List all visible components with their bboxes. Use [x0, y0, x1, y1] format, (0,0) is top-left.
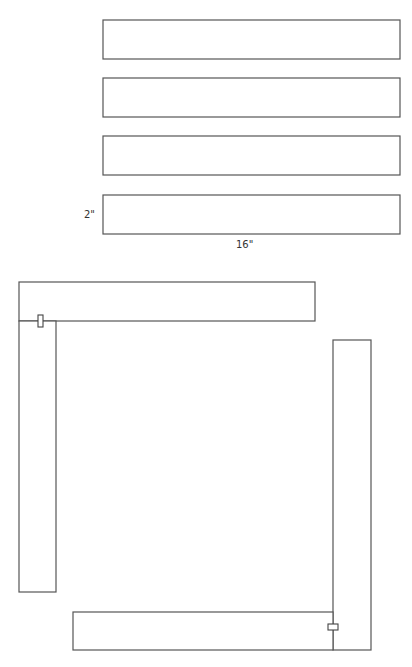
- strip-2: [103, 78, 400, 117]
- strips-group: [103, 20, 400, 234]
- clamp-top-left-icon: [38, 315, 43, 327]
- strip-1: [103, 20, 400, 59]
- frame-right-bar: [333, 340, 371, 650]
- strip-4: [103, 195, 400, 234]
- clamp-bottom-right-icon: [328, 624, 338, 630]
- strip-3: [103, 136, 400, 175]
- frame-top-bar: [19, 282, 315, 321]
- frame-assembly: [19, 282, 371, 650]
- frame-bottom-bar: [73, 612, 333, 650]
- diagram-canvas: 2" 16": [0, 0, 412, 667]
- width-dimension-label: 16": [236, 239, 253, 250]
- height-dimension-label: 2": [84, 209, 95, 220]
- frame-left-bar: [19, 321, 56, 592]
